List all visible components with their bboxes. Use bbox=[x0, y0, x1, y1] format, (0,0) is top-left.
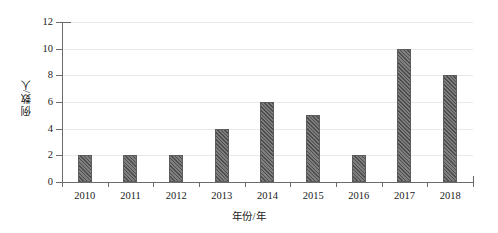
x-axis-label-2014: 2014 bbox=[245, 190, 291, 202]
x-axis-label-2017: 2017 bbox=[382, 190, 428, 202]
y-axis-label-12: 12 bbox=[3, 17, 53, 27]
x-axis-title: 年份/年 bbox=[0, 210, 498, 223]
bar-slot-2013 bbox=[199, 22, 245, 182]
bar-2010[interactable] bbox=[78, 155, 92, 182]
y-axis-labels-group: 121086420 bbox=[0, 0, 53, 233]
bar-2012[interactable] bbox=[169, 155, 183, 182]
y-axis-label-0: 0 bbox=[3, 177, 53, 187]
x-axis-tick-7 bbox=[382, 182, 383, 187]
bar-2013[interactable] bbox=[215, 129, 229, 182]
bars-group bbox=[62, 22, 473, 182]
bar-2017[interactable] bbox=[397, 49, 411, 182]
x-axis-line bbox=[62, 182, 474, 183]
x-axis-tick-0 bbox=[62, 182, 63, 187]
x-axis-label-2016: 2016 bbox=[336, 190, 382, 202]
bar-slot-2014 bbox=[245, 22, 291, 182]
bar-slot-2011 bbox=[108, 22, 154, 182]
x-axis-label-2015: 2015 bbox=[290, 190, 336, 202]
bar-2015[interactable] bbox=[306, 115, 320, 182]
x-axis-label-2013: 2013 bbox=[199, 190, 245, 202]
bar-slot-2017 bbox=[382, 22, 428, 182]
x-axis-tick-5 bbox=[290, 182, 291, 187]
bar-slot-2010 bbox=[62, 22, 108, 182]
bar-2018[interactable] bbox=[443, 75, 457, 182]
bar-2016[interactable] bbox=[352, 155, 366, 182]
x-axis-tick-4 bbox=[245, 182, 246, 187]
y-axis-label-4: 4 bbox=[3, 124, 53, 134]
bar-2014[interactable] bbox=[260, 102, 274, 182]
bar-slot-2016 bbox=[336, 22, 382, 182]
bar-chart-figure: 121086420 例数/人 2010201120122013201420152… bbox=[0, 0, 498, 233]
y-axis-label-10: 10 bbox=[3, 44, 53, 54]
x-axis-tick-6 bbox=[336, 182, 337, 187]
x-axis-label-2012: 2012 bbox=[153, 190, 199, 202]
bar-slot-2018 bbox=[427, 22, 473, 182]
x-axis-tick-2 bbox=[153, 182, 154, 187]
bar-slot-2012 bbox=[153, 22, 199, 182]
bar-slot-2015 bbox=[290, 22, 336, 182]
y-axis-label-2: 2 bbox=[3, 150, 53, 160]
x-axis-label-2011: 2011 bbox=[108, 190, 154, 202]
x-axis-label-2010: 2010 bbox=[62, 190, 108, 202]
x-axis-label-2018: 2018 bbox=[427, 190, 473, 202]
bar-2011[interactable] bbox=[123, 155, 137, 182]
x-axis-tick-1 bbox=[108, 182, 109, 187]
x-axis-tick-8 bbox=[427, 182, 428, 187]
y-axis-title: 例数/人 bbox=[20, 78, 36, 116]
x-axis-tick-9 bbox=[473, 182, 474, 187]
x-axis-tick-3 bbox=[199, 182, 200, 187]
